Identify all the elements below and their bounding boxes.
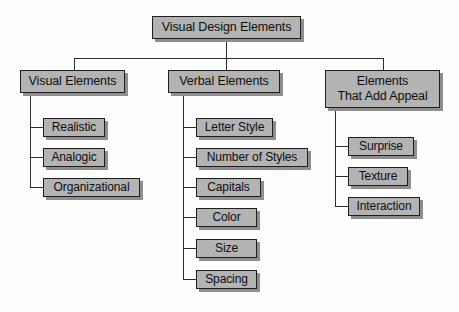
node-visual-elements: Visual Elements bbox=[20, 70, 125, 93]
connector-verbal-tick-1 bbox=[183, 127, 196, 128]
node-elements-that-add-appeal: Elements That Add Appeal bbox=[325, 70, 440, 108]
node-color: Color bbox=[196, 208, 257, 227]
node-elements-that-add-appeal-label-line2: That Add Appeal bbox=[337, 89, 427, 104]
connector-visual-tick-2 bbox=[30, 157, 43, 158]
connector-verbal-tick-4 bbox=[183, 217, 196, 218]
node-number-of-styles-label: Number of Styles bbox=[207, 151, 297, 164]
connector-bus-drop-center bbox=[226, 58, 227, 70]
node-visual-elements-label: Visual Elements bbox=[29, 75, 117, 89]
connector-bus-drop-right bbox=[383, 58, 384, 70]
node-letter-style: Letter Style bbox=[196, 118, 273, 137]
node-verbal-elements: Verbal Elements bbox=[168, 70, 280, 93]
hierarchy-diagram: Visual Design Elements Visual Elements V… bbox=[0, 0, 459, 312]
connector-verbal-tick-5 bbox=[183, 248, 196, 249]
node-organizational: Organizational bbox=[43, 178, 140, 197]
connector-verbal-tick-3 bbox=[183, 187, 196, 188]
node-texture-label: Texture bbox=[359, 170, 398, 183]
node-interaction: Interaction bbox=[348, 197, 420, 216]
node-spacing-label: Spacing bbox=[205, 273, 248, 286]
connector-visual-stem bbox=[30, 93, 31, 187]
node-color-label: Color bbox=[212, 211, 240, 224]
connector-visual-tick-3 bbox=[30, 187, 43, 188]
connector-verbal-tick-6 bbox=[183, 279, 196, 280]
node-interaction-label: Interaction bbox=[357, 200, 412, 213]
node-verbal-elements-label: Verbal Elements bbox=[179, 75, 269, 89]
connector-appeal-tick-3 bbox=[335, 206, 348, 207]
connector-appeal-tick-2 bbox=[335, 176, 348, 177]
node-realistic: Realistic bbox=[43, 118, 105, 137]
connector-visual-tick-1 bbox=[30, 127, 43, 128]
node-organizational-label: Organizational bbox=[54, 181, 130, 194]
node-analogic-label: Analogic bbox=[51, 151, 96, 164]
connector-appeal-stem bbox=[335, 108, 336, 206]
connector-bus bbox=[74, 58, 384, 59]
connector-verbal-tick-2 bbox=[183, 157, 196, 158]
node-spacing: Spacing bbox=[196, 270, 257, 289]
node-texture: Texture bbox=[348, 167, 408, 186]
node-root-label: Visual Design Elements bbox=[162, 21, 292, 35]
node-realistic-label: Realistic bbox=[52, 121, 96, 134]
node-size-label: Size bbox=[215, 242, 238, 255]
node-number-of-styles: Number of Styles bbox=[196, 148, 308, 167]
node-capitals-label: Capitals bbox=[207, 181, 250, 194]
node-surprise: Surprise bbox=[348, 137, 414, 156]
node-letter-style-label: Letter Style bbox=[205, 121, 265, 134]
node-capitals: Capitals bbox=[196, 178, 261, 197]
node-elements-that-add-appeal-label-line1: Elements bbox=[357, 74, 408, 89]
connector-verbal-stem bbox=[183, 93, 184, 279]
connector-appeal-tick-1 bbox=[335, 146, 348, 147]
connector-bus-drop-left bbox=[74, 58, 75, 70]
node-analogic: Analogic bbox=[43, 148, 105, 167]
connector-root-stem bbox=[226, 38, 227, 58]
node-root: Visual Design Elements bbox=[152, 16, 301, 39]
node-surprise-label: Surprise bbox=[359, 140, 403, 153]
node-size: Size bbox=[196, 239, 257, 258]
